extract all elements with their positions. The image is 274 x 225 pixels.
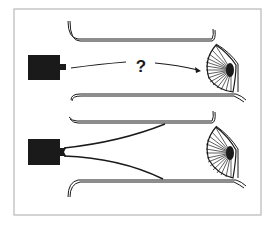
fan-structure-bottom (206, 126, 238, 178)
diagram: ? (0, 0, 274, 225)
source-nozzle (60, 64, 66, 70)
trajectory-line-right (155, 63, 198, 70)
tube-upper-wall (68, 21, 215, 41)
tube-lower-wall (71, 94, 246, 102)
tube-lower-wall-bottom (68, 180, 246, 197)
beam-lower (64, 156, 163, 179)
source-box-bottom (28, 139, 60, 165)
source-nozzle-bottom (60, 148, 66, 156)
panel-top: ? (28, 21, 246, 102)
source-box (28, 55, 60, 80)
arrowhead (195, 67, 201, 73)
panel-bottom (28, 111, 246, 197)
beam-upper (64, 124, 165, 148)
tube-upper-wall-bottom (69, 111, 215, 123)
fan-structure (206, 44, 238, 92)
trajectory-line-left (71, 62, 126, 68)
question-mark: ? (136, 57, 146, 76)
figure-frame (14, 9, 261, 215)
